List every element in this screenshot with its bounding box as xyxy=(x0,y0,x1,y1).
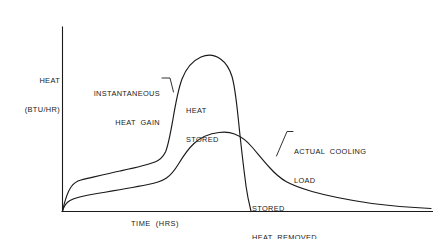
y-axis-label-line-2: (BTU/HR) xyxy=(8,105,60,115)
label-instantaneous-heat-gain-line-1: INSTANTANEOUS xyxy=(82,89,160,99)
label-heat-stored-line-2: STORED xyxy=(186,135,246,145)
cooling-load-diagram: HEAT (BTU/HR) TIME (HRS) INSTANTANEOUS H… xyxy=(0,0,433,239)
label-actual-cooling-load-line-1: ACTUAL COOLING xyxy=(294,147,394,157)
label-instantaneous-heat-gain-line-2: HEAT GAIN xyxy=(82,118,160,128)
instantaneous-heat-gain-leader-icon xyxy=(162,78,174,92)
label-instantaneous-heat-gain: INSTANTANEOUS HEAT GAIN xyxy=(82,70,160,147)
label-stored-heat-removed-line-2: HEAT REMOVED xyxy=(252,233,352,239)
label-stored-heat-removed: STORED HEAT REMOVED xyxy=(252,185,352,239)
label-heat-stored: HEAT STORED xyxy=(186,87,246,164)
label-stored-heat-removed-line-1: STORED xyxy=(252,204,352,214)
y-axis-label-line-1: HEAT xyxy=(8,76,60,86)
x-axis-label: TIME (HRS) xyxy=(95,219,215,229)
y-axis-label: HEAT (BTU/HR) xyxy=(8,57,60,134)
actual-cooling-load-leader-icon xyxy=(277,132,294,157)
label-heat-stored-line-1: HEAT xyxy=(186,106,246,116)
